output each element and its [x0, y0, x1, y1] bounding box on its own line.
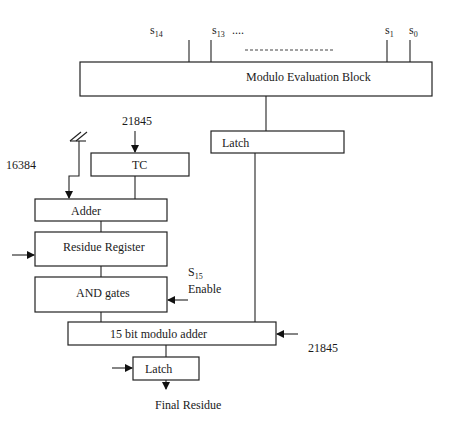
adder-input-label: 16384 [6, 158, 36, 172]
latch-bottom-label: Latch [145, 362, 172, 376]
latch-bottom-block: Latch [133, 357, 199, 380]
signal-s0: s0 [409, 23, 418, 62]
and-gates-label: AND gates [76, 286, 130, 300]
final-residue-label: Final Residue [155, 398, 221, 412]
tc-input-label: 21845 [122, 114, 152, 128]
signal-s0-label: s0 [409, 23, 418, 39]
adder-label: Adder [71, 204, 101, 218]
residue-register-label: Residue Register [63, 240, 145, 254]
signal-s1-label: s1 [385, 23, 394, 39]
modulo-evaluation-block: Modulo Evaluation Block [80, 62, 432, 96]
enable-label: Enable [188, 282, 221, 296]
latch-top-block: Latch [211, 131, 344, 153]
latch-top-label: Latch [222, 136, 249, 150]
and-gates-block: AND gates [35, 277, 167, 312]
residue-register-block: Residue Register [35, 232, 167, 266]
ellipsis: .... [232, 23, 244, 37]
tc-block: TC [91, 153, 189, 176]
signal-s14-label: s14 [150, 23, 163, 39]
signal-s13: s13 [211, 23, 225, 62]
modulo-adder-15-label: 15 bit modulo adder [110, 327, 207, 341]
tc-label: TC [132, 158, 147, 172]
modulo-adder-input-label: 21845 [308, 341, 338, 355]
bus-slash-icon [70, 132, 87, 141]
modulo-adder-15-block: 15 bit modulo adder [68, 322, 276, 345]
residue-diagram: s14 s13 .... s1 s0 Modulo Evaluation Blo… [0, 0, 455, 428]
signal-s13-label: s13 [212, 23, 225, 39]
signal-s1: s1 [385, 23, 394, 62]
signal-s14: s14 [150, 23, 189, 62]
adder-block: Adder [35, 199, 167, 221]
s15-label: S15 [188, 265, 203, 281]
modulo-evaluation-label: Modulo Evaluation Block [246, 70, 371, 84]
adder-input-arrow [69, 141, 79, 198]
